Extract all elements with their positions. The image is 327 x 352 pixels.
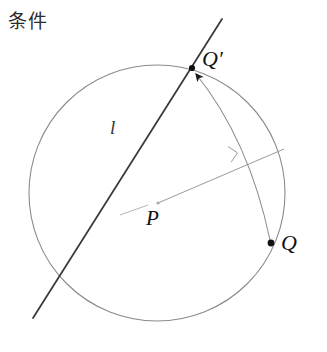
p-left-stub-segment	[120, 205, 148, 215]
point-q-prime-marker	[189, 65, 195, 71]
arrow-q-to-qprime	[196, 74, 270, 240]
point-label-q-prime: Q′	[202, 48, 223, 70]
right-angle-marker	[228, 147, 237, 163]
line-l	[33, 19, 222, 318]
geometry-canvas	[0, 0, 327, 352]
main-circle	[29, 65, 285, 321]
point-label-p: P	[146, 208, 159, 229]
figure-heading: 条件	[8, 12, 48, 31]
point-p-marker	[156, 201, 159, 204]
geometry-figure: 条件 l Q′ Q P	[0, 0, 327, 352]
perpendicular-ray-from-p	[158, 149, 284, 203]
line-label-l: l	[110, 118, 115, 137]
point-q-marker	[268, 240, 275, 247]
point-label-q: Q	[281, 232, 297, 254]
